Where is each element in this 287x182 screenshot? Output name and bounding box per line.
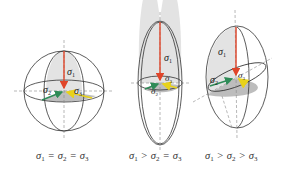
triaxial-panel: σ1 σ2 σ3 bbox=[193, 10, 272, 138]
octant-fill bbox=[46, 51, 64, 91]
caption-sphere: σ1 = σ2 = σ3 bbox=[36, 150, 88, 163]
prolate-panel: σ1 σ2 σ3 bbox=[131, 0, 189, 150]
sphere-panel: σ1 σ2 σ3 bbox=[14, 40, 114, 140]
caption-prolate: σ1 > σ2 = σ3 bbox=[129, 150, 181, 163]
sigma3-label: σ3 bbox=[238, 70, 245, 81]
caption-triaxial: σ1 > σ2 > σ3 bbox=[205, 150, 257, 163]
